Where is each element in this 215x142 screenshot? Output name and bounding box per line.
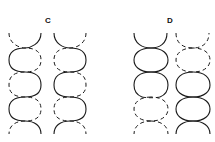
dashed-strand bbox=[176, 33, 209, 48]
solid-oval bbox=[176, 97, 210, 121]
dashed-oval bbox=[176, 48, 210, 72]
panel-c-column-left bbox=[9, 33, 41, 134]
dashed-strand bbox=[134, 121, 168, 134]
panel-d-column-right bbox=[176, 33, 210, 134]
solid-oval bbox=[176, 72, 210, 97]
helix-diagram bbox=[0, 0, 215, 142]
panel-c-column-right bbox=[54, 33, 86, 134]
panel-d-column-left bbox=[134, 33, 168, 134]
solid-strand bbox=[176, 121, 210, 134]
solid-oval bbox=[134, 72, 151, 97]
solid-oval bbox=[151, 72, 168, 97]
solid-strand bbox=[134, 33, 167, 48]
dashed-oval bbox=[134, 97, 168, 121]
solid-oval bbox=[134, 48, 168, 72]
